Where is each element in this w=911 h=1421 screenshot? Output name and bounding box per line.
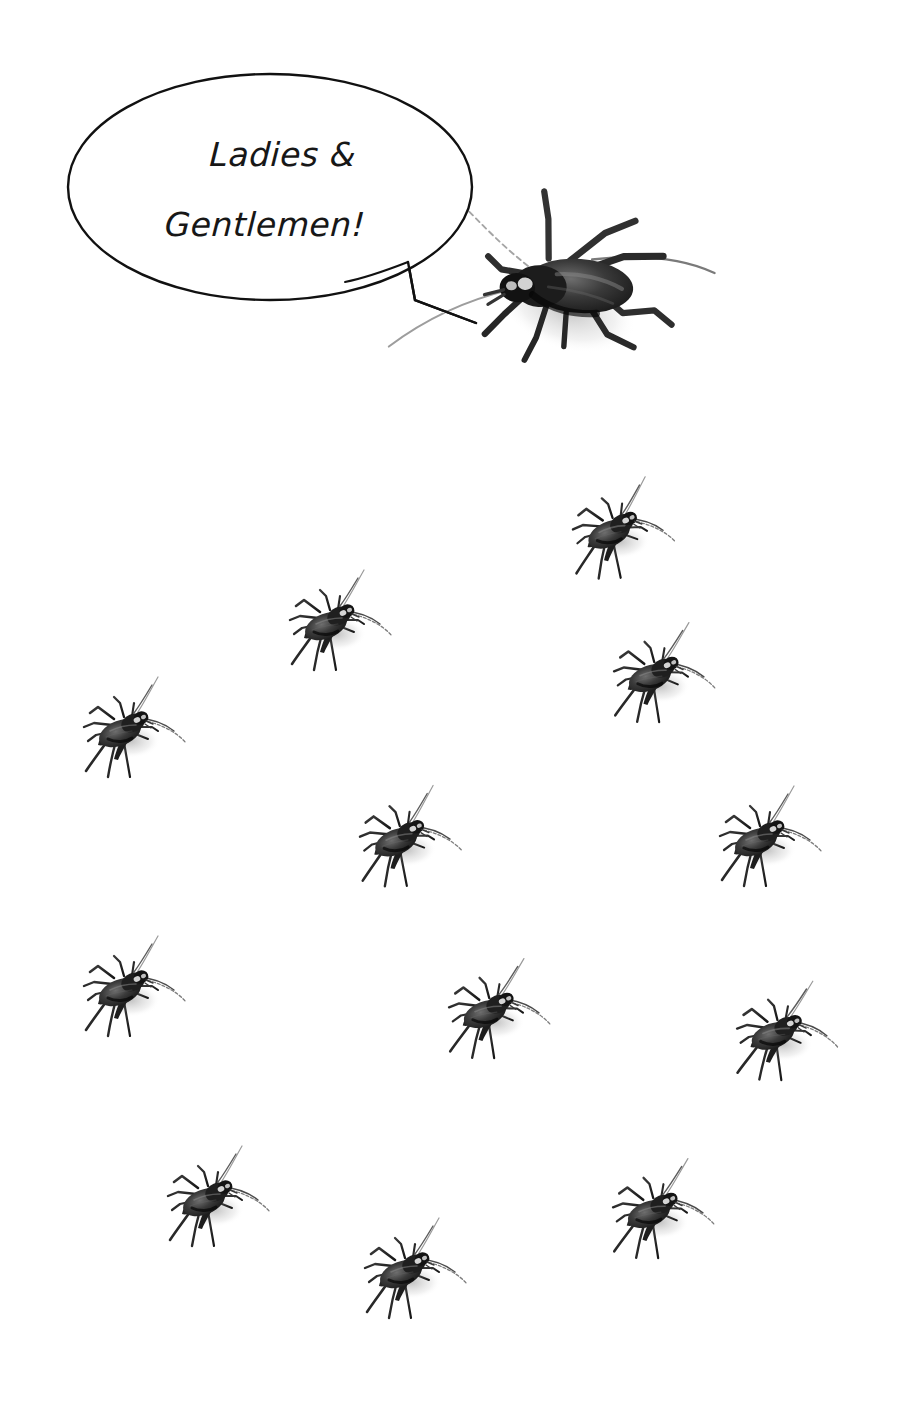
speech-bubble-text: Ladies & Gentlemen! (152, 120, 409, 260)
speech-bubble-tail-edge (408, 262, 476, 323)
cartoon-canvas: Ladies & Gentlemen! (0, 0, 911, 1421)
speech-bubble: Ladies & Gentlemen! (60, 66, 490, 336)
speech-bubble-line-1: Ladies & (209, 135, 357, 174)
speech-bubble-line-2: Gentlemen! (124, 190, 406, 260)
